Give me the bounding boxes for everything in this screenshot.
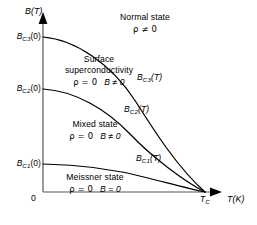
curve-label-bc2: BC2(T) xyxy=(124,104,149,114)
y-tick-bc3-zero: BC3(0) xyxy=(17,31,41,41)
region-label-surface-title-1: Surface xyxy=(84,54,114,64)
curve-label-bc1: BC1(T) xyxy=(136,153,161,163)
y-axis-label: B(T) xyxy=(25,6,43,17)
origin-tick-label: 0 xyxy=(31,193,36,203)
region-label-mixed-condition: ρ = 0B ≠ 0 xyxy=(69,131,120,141)
region-label-normal-title: Normal state xyxy=(120,12,170,22)
x-axis-label: T(K) xyxy=(227,194,245,205)
region-label-meissner-condition: ρ = 0B = 0 xyxy=(69,184,121,194)
region-label-meissner-title: Meissner state xyxy=(66,172,123,182)
region-label-normal-condition: ρ ≠ 0 xyxy=(133,24,157,34)
region-label-mixed-title: Mixed state xyxy=(72,119,117,129)
region-label-surface-title-2: superconductivity xyxy=(65,65,133,75)
phase-diagram-figure: B(T) T(K) 0 TC BC3(0) BC2(0) BC1(0) BC3(… xyxy=(0,0,257,225)
y-tick-bc1-zero: BC1(0) xyxy=(17,158,41,168)
curve-bc3 xyxy=(43,37,205,192)
region-label-surface-condition: ρ = 0B ≠ 0 xyxy=(73,77,124,87)
x-tick-tc: TC xyxy=(200,194,210,204)
curve-label-bc3: BC3(T) xyxy=(137,72,162,82)
y-tick-bc2-zero: BC2(0) xyxy=(17,83,41,93)
